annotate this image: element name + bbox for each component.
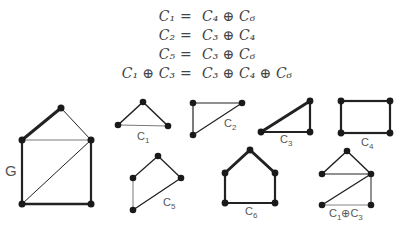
graph-C6-label: C6	[245, 205, 258, 220]
graph-C1-xor-C3-label: C1⊕C3	[329, 207, 363, 222]
graph-C3-label: C3	[280, 133, 293, 148]
graph-G-label: G	[5, 162, 17, 179]
graph-C4	[338, 98, 394, 137]
graph-C2-label: C2	[224, 117, 237, 132]
graph-C4-label: C4	[361, 136, 374, 151]
graph-C1-label: C1	[137, 130, 150, 145]
edge	[61, 108, 91, 140]
edge	[22, 108, 61, 140]
graph-C2	[190, 100, 246, 139]
vertex	[88, 137, 95, 144]
vertex	[88, 201, 95, 208]
graph-C1-xor-C3	[319, 148, 375, 209]
edge	[22, 140, 91, 204]
graph-C5-label: C5	[163, 196, 176, 211]
cycle-diagrams: G C1 C2 C3 C4	[0, 0, 405, 230]
graph-C3	[258, 98, 314, 136]
vertex	[19, 137, 26, 144]
vertex	[58, 105, 65, 112]
graph-C1	[115, 99, 172, 130]
graph-G	[19, 105, 95, 208]
vertex	[19, 201, 26, 208]
graph-C5	[130, 153, 185, 214]
graph-C6	[222, 147, 279, 207]
